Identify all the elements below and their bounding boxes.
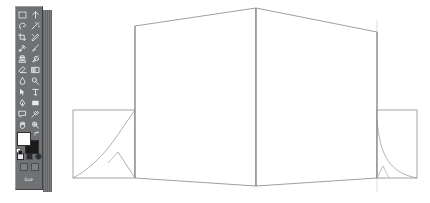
reset-colors-icon[interactable]: [16, 148, 23, 155]
screen-mode-row[interactable]: [20, 163, 39, 171]
center-right-face[interactable]: [256, 8, 377, 186]
toolbox-drop-shadow: [43, 10, 52, 192]
tool-hand[interactable]: [16, 119, 29, 130]
tool-eraser[interactable]: [16, 64, 29, 75]
tool-pen[interactable]: [16, 97, 29, 108]
right-wing-outline[interactable]: [377, 110, 417, 178]
center-right-face-outline[interactable]: [256, 8, 377, 186]
tool-blur[interactable]: [16, 75, 29, 86]
application-window: [0, 0, 430, 203]
tool-eyedropper[interactable]: [29, 108, 42, 119]
standard-screen-mode-button[interactable]: [20, 163, 28, 171]
artwork-vector-drawing[interactable]: [0, 0, 430, 203]
right-wing-panel[interactable]: [377, 110, 417, 178]
quick-mask-mode-button[interactable]: [26, 153, 33, 160]
center-left-face-outline[interactable]: [135, 8, 256, 186]
jump-to-imageready-icon[interactable]: [22, 175, 36, 183]
tool-notes[interactable]: [16, 108, 29, 119]
tool-dodge[interactable]: [29, 75, 42, 86]
center-left-face[interactable]: [135, 8, 256, 186]
color-swatches[interactable]: [16, 132, 42, 150]
canvas-area[interactable]: [0, 0, 430, 203]
toolbox-palette[interactable]: [15, 6, 43, 190]
swap-colors-icon[interactable]: [34, 131, 41, 138]
tool-shape[interactable]: [29, 97, 42, 108]
tool-brush[interactable]: [29, 42, 42, 53]
tool-stamp[interactable]: [16, 53, 29, 64]
tool-healing-brush[interactable]: [16, 42, 29, 53]
mask-options-button[interactable]: [35, 153, 42, 160]
tool-zoom[interactable]: [29, 119, 42, 130]
left-wing-outline[interactable]: [73, 110, 135, 178]
tool-grid[interactable]: [16, 9, 42, 130]
tool-move[interactable]: [29, 9, 42, 20]
tool-path-select[interactable]: [16, 86, 29, 97]
foreground-color-swatch[interactable]: [17, 132, 31, 146]
tool-history-brush[interactable]: [29, 53, 42, 64]
tool-marquee[interactable]: [16, 9, 29, 20]
tool-crop[interactable]: [16, 31, 29, 42]
tool-magic-wand[interactable]: [29, 20, 42, 31]
tool-type[interactable]: [29, 86, 42, 97]
tool-lasso[interactable]: [16, 20, 29, 31]
tool-gradient[interactable]: [29, 64, 42, 75]
tool-slice[interactable]: [29, 31, 42, 42]
full-screen-mode-button[interactable]: [31, 163, 39, 171]
left-wing-panel[interactable]: [73, 110, 135, 178]
